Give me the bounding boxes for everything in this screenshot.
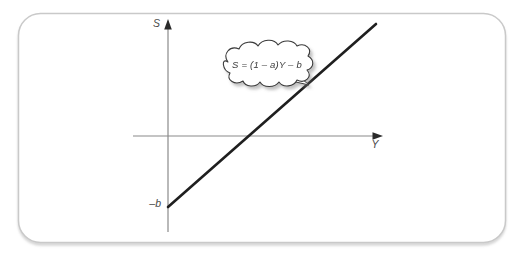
equation-label: S = (1 – a)Y – b — [232, 59, 302, 70]
y-axis-label: S — [153, 17, 160, 29]
y-intercept-label: –b — [148, 197, 161, 209]
figure-panel: S Y –b S = (1 – a)Y – b — [0, 0, 528, 255]
x-axis-label: Y — [371, 138, 379, 150]
savings-function-chart: S Y –b S = (1 – a)Y – b — [0, 0, 528, 255]
